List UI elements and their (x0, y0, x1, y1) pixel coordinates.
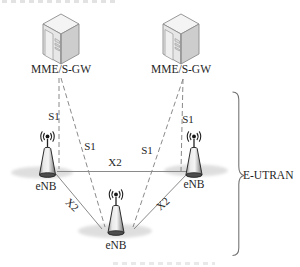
enb-right-label: eNB (183, 179, 204, 191)
enb-bottom-label: eNB (105, 240, 126, 252)
eutran-region-label: E-UTRAN (243, 170, 293, 182)
enb-left-label: eNB (35, 181, 56, 193)
x2-horizontal-label: X2 (108, 157, 121, 168)
s1-left-vertical-label: S1 (48, 111, 60, 122)
mme-right-label: MME/S-GW (151, 64, 211, 76)
s1-right-diagonal-label: S1 (141, 145, 153, 156)
s1-left-diagonal-label: S1 (84, 141, 96, 152)
mme-left-label: MME/S-GW (31, 64, 91, 76)
diagram-canvas (0, 0, 300, 267)
x2-link-left-diagonal (56, 174, 102, 229)
enb-left-icon (40, 132, 56, 178)
mme-sgw-right-icon (163, 14, 199, 64)
s1-link-right-vertical (181, 79, 183, 171)
enb-right-icon (186, 132, 202, 178)
mme-sgw-left-icon (43, 14, 79, 64)
s1-right-vertical-label: S1 (182, 114, 194, 125)
network-diagram: MME/S-GW MME/S-GW eNB eNB eNB S1 S1 S1 S… (0, 0, 300, 267)
enb-bottom-icon (108, 190, 124, 236)
